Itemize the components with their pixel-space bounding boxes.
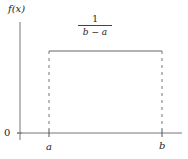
density-height-label: 1 b − a <box>78 14 112 37</box>
origin-label: 0 <box>4 128 10 138</box>
x-tick-label-a: a <box>46 142 52 152</box>
y-axis-label: f(x) <box>8 4 25 14</box>
fraction-numerator: 1 <box>78 14 112 26</box>
fraction-denominator: b − a <box>78 26 112 37</box>
x-tick-label-b: b <box>159 141 165 151</box>
